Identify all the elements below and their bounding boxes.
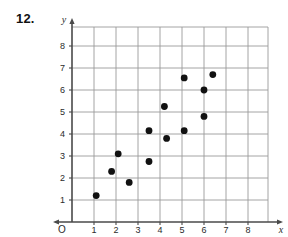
y-axis-label: y bbox=[61, 14, 67, 25]
data-point bbox=[181, 127, 188, 134]
y-tick-label: 1 bbox=[60, 195, 65, 205]
x-tick-label: 3 bbox=[135, 225, 140, 235]
y-tick-label: 5 bbox=[60, 107, 65, 117]
x-axis-label: x bbox=[278, 224, 284, 235]
data-point bbox=[126, 179, 133, 186]
y-tick-label: 6 bbox=[60, 85, 65, 95]
x-tick-label: 1 bbox=[91, 225, 96, 235]
data-point bbox=[108, 168, 115, 175]
data-point bbox=[201, 113, 208, 120]
tick-labels: 1234567812345678 bbox=[60, 41, 251, 235]
data-point bbox=[93, 192, 100, 199]
data-point bbox=[209, 71, 216, 78]
x-tick-label: 6 bbox=[201, 225, 206, 235]
x-tick-label: 5 bbox=[179, 225, 184, 235]
grid-lines bbox=[72, 27, 268, 222]
data-point bbox=[163, 135, 170, 142]
y-tick-label: 2 bbox=[60, 173, 65, 183]
y-tick-label: 4 bbox=[60, 129, 65, 139]
y-tick-label: 3 bbox=[60, 151, 65, 161]
data-point bbox=[161, 103, 168, 110]
data-point bbox=[146, 158, 153, 165]
x-tick-label: 4 bbox=[157, 225, 162, 235]
axis-titles: yxO bbox=[58, 14, 284, 235]
x-tick-label: 8 bbox=[245, 225, 250, 235]
data-point bbox=[146, 127, 153, 134]
data-point bbox=[115, 150, 122, 157]
x-tick-label: 2 bbox=[113, 225, 118, 235]
data-point bbox=[181, 75, 188, 82]
y-axis-arrow bbox=[69, 18, 74, 24]
y-tick-label: 8 bbox=[60, 41, 65, 51]
y-tick-label: 7 bbox=[60, 63, 65, 73]
scatter-plot-figure: 1234567812345678 yxO bbox=[0, 0, 288, 237]
data-point bbox=[201, 87, 208, 94]
axes bbox=[53, 18, 283, 225]
origin-label: O bbox=[58, 224, 66, 235]
x-tick-label: 7 bbox=[223, 225, 228, 235]
coordinate-grid-svg: 1234567812345678 yxO bbox=[0, 0, 288, 237]
